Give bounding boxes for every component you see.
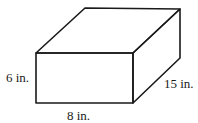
- width-label: 8 in.: [67, 108, 90, 123]
- depth-label: 15 in.: [164, 76, 194, 91]
- top-face: [36, 8, 180, 53]
- prism: [36, 8, 180, 103]
- height-label: 6 in.: [6, 70, 29, 85]
- rectangular-prism-diagram: 6 in. 8 in. 15 in.: [0, 0, 198, 123]
- front-face: [36, 53, 133, 103]
